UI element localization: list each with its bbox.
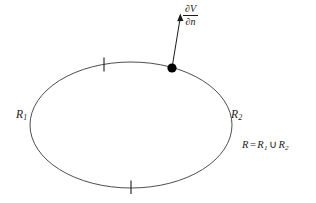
equals-sign: = <box>248 139 257 150</box>
boundary-point-marker <box>167 63 176 72</box>
union-equation-label: R=R1∪R2 <box>242 140 289 152</box>
diagram-canvas <box>0 0 316 203</box>
region-label-r1: R1 <box>16 109 27 122</box>
derivative-numerator: ∂V <box>183 4 198 15</box>
derivative-fraction: ∂V ∂n <box>183 4 198 28</box>
derivative-numerator-variable: V <box>190 3 196 14</box>
region-label-r1-subscript: 1 <box>23 113 27 122</box>
union-term1-base: R <box>257 139 263 150</box>
derivative-denominator: ∂n <box>183 17 198 28</box>
region-label-r1-base: R <box>16 108 23 120</box>
region-boundary-ellipse <box>30 62 232 188</box>
region-label-r2-subscript: 2 <box>238 113 242 122</box>
outward-normal-arrow-shaft <box>172 19 180 68</box>
region-label-r2-base: R <box>231 108 238 120</box>
union-term2-base: R <box>278 139 284 150</box>
region-label-r2: R2 <box>231 109 242 122</box>
derivative-denominator-variable: n <box>191 16 196 27</box>
union-symbol: ∪ <box>267 139 278 150</box>
union-term2-subscript: 2 <box>285 144 289 152</box>
geometry-diagram-figure: R1 R2 R=R1∪R2 ∂V ∂n <box>0 0 316 203</box>
normal-derivative-label: ∂V ∂n <box>183 4 198 28</box>
